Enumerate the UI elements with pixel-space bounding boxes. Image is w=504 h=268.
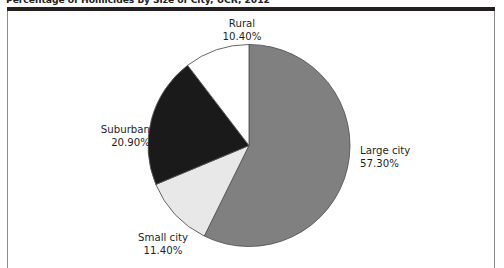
pie-label-rural-name: Rural [184,17,300,30]
pie-label-large-city-value: 57.30% [360,157,470,170]
pie-label-rural-value: 10.40% [184,30,300,43]
pie-slices [148,45,350,247]
pie-label-rural: Rural 10.40% [184,17,300,43]
pie-label-small-city-value: 11.40% [108,244,218,257]
pie-label-suburban-value: 20.90% [40,136,150,149]
pie-label-small-city-name: Small city [108,231,218,244]
pie-label-small-city: Small city 11.40% [108,231,218,257]
pie-label-suburban-name: Suburban [40,123,150,136]
pie-label-large-city-name: Large city [360,144,470,157]
pie-label-suburban: Suburban 20.90% [40,123,150,149]
figure-container: Percentage of Homicides by Size of City,… [0,0,504,268]
pie-label-large-city: Large city 57.30% [360,144,470,170]
